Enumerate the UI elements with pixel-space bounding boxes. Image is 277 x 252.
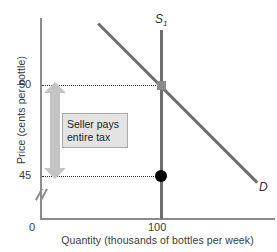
after-tax-price-marker: [155, 170, 167, 182]
y-axis-title: Price (cents per bottle): [15, 35, 27, 185]
y-axis-break-icon: [32, 186, 50, 206]
supply-label-text: S: [155, 12, 163, 26]
equilibrium-marker: [157, 81, 166, 90]
supply-curve-label: S1: [155, 12, 167, 28]
supply-label-subscript: 1: [163, 19, 167, 28]
supply-curve: [160, 30, 163, 219]
tax-note-line-1: Seller pays: [67, 118, 127, 131]
supply-demand-tax-chart: Price (cents per bottle) Quantity (thous…: [0, 0, 277, 252]
x-axis-title: Quantity (thousands of bottles per week): [40, 234, 275, 246]
y-tick-label-50: 50: [19, 78, 31, 90]
x-tick-label-100: 100: [148, 221, 166, 233]
x-axis-line: [40, 218, 275, 220]
tax-incidence-note-box: Seller pays entire tax: [62, 113, 128, 148]
x-tick-label-origin: 0: [29, 221, 35, 233]
y-tick-label-45: 45: [19, 169, 31, 181]
demand-curve: [97, 22, 258, 183]
demand-curve-label: D: [259, 180, 268, 194]
arrow-shaft: [50, 91, 60, 170]
tax-note-line-2: entire tax: [67, 131, 127, 144]
arrow-head-down-icon: [44, 168, 66, 179]
